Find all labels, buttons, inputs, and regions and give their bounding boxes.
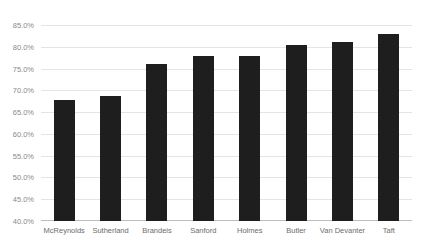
y-axis-tick-label: 65.0%	[0, 108, 34, 117]
x-axis-category-label: Sutherland	[92, 226, 128, 235]
y-axis-tick-labels: 85.0%80.0%75.0%70.0%65.0%60.0%55.0%50.0%…	[0, 25, 37, 221]
x-axis-category-label: Holmes	[237, 226, 262, 235]
bar[interactable]	[54, 100, 75, 221]
y-axis-tick-label: 40.0%	[0, 217, 34, 226]
x-axis-category-label: Butler	[286, 226, 306, 235]
bar[interactable]	[286, 45, 307, 221]
x-axis-category-label: Sanford	[190, 226, 216, 235]
y-axis-tick-label: 60.0%	[0, 129, 34, 138]
x-axis-category-label: McReynolds	[44, 226, 85, 235]
bar[interactable]	[193, 56, 214, 221]
x-axis-category-label: Van Devanter	[320, 226, 365, 235]
y-axis-tick-label: 45.0%	[0, 195, 34, 204]
x-axis-category-label: Taft	[383, 226, 395, 235]
bar[interactable]	[332, 42, 353, 221]
bar[interactable]	[378, 34, 399, 221]
y-axis-tick-label: 75.0%	[0, 64, 34, 73]
x-axis-category-labels: McReynoldsSutherlandBrandeisSanfordHolme…	[41, 226, 412, 240]
bar[interactable]	[239, 56, 260, 221]
y-axis-tick-label: 55.0%	[0, 151, 34, 160]
y-axis-tick-label: 85.0%	[0, 21, 34, 30]
y-axis-tick-label: 80.0%	[0, 42, 34, 51]
x-axis-category-label: Brandeis	[142, 226, 172, 235]
y-axis-tick-label: 50.0%	[0, 173, 34, 182]
y-axis-tick-label: 70.0%	[0, 86, 34, 95]
chart-page: 85.0%80.0%75.0%70.0%65.0%60.0%55.0%50.0%…	[0, 0, 431, 247]
bar[interactable]	[100, 96, 121, 221]
bar[interactable]	[146, 64, 167, 221]
bar-series	[41, 25, 412, 221]
